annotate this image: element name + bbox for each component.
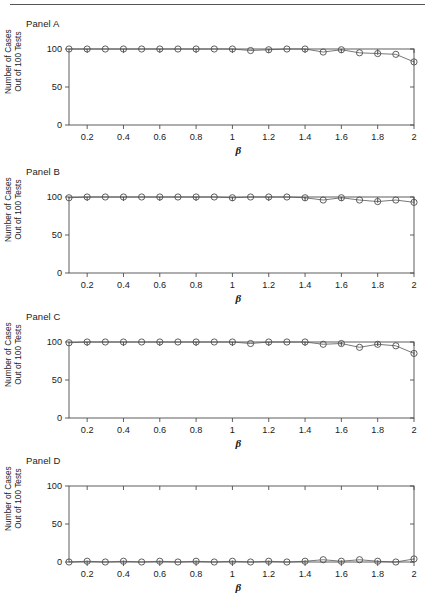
data-point-marker	[84, 339, 90, 345]
data-point-marker	[356, 344, 362, 350]
data-point-marker	[139, 559, 145, 565]
y-tick-label: 0	[57, 120, 62, 130]
x-tick-label: 1.2	[262, 569, 275, 579]
data-point-marker	[302, 339, 308, 345]
x-tick-label: 1.6	[335, 132, 348, 142]
x-tick-label: 1	[230, 280, 235, 290]
data-point-marker	[120, 558, 126, 564]
x-tick-label: 0.4	[117, 425, 130, 435]
panel-b: Panel B Number of Cases Out of 100 Tests…	[0, 166, 435, 314]
data-point-marker	[84, 194, 90, 200]
data-point-marker	[102, 46, 108, 52]
data-point-marker	[302, 46, 308, 52]
data-point-marker	[266, 558, 272, 564]
panel-c: Panel C Number of Cases Out of 100 Tests…	[0, 311, 435, 459]
data-point-marker	[229, 195, 235, 201]
data-point-marker	[356, 557, 362, 563]
data-point-marker	[120, 194, 126, 200]
y-tick-label: 100	[47, 481, 62, 491]
y-tick-label: 50	[52, 519, 62, 529]
data-point-marker	[247, 559, 253, 565]
data-point-marker	[157, 558, 163, 564]
data-point-marker	[393, 343, 399, 349]
data-point-marker	[247, 340, 253, 346]
data-point-marker	[229, 339, 235, 345]
data-point-marker	[66, 195, 72, 201]
panel-d-svg: 0.20.40.60.811.21.41.61.82050100	[0, 455, 435, 601]
y-tick-label: 50	[52, 230, 62, 240]
panel-d: Panel D Number of Cases Out of 100 Tests…	[0, 455, 435, 601]
x-tick-label: 1	[230, 569, 235, 579]
data-point-marker	[356, 50, 362, 56]
x-tick-label: 2	[411, 425, 416, 435]
data-point-marker	[411, 199, 417, 205]
data-point-marker	[393, 51, 399, 57]
y-tick-label: 0	[57, 413, 62, 423]
x-tick-label: 1.4	[299, 569, 312, 579]
y-tick-label: 50	[52, 375, 62, 385]
data-point-marker	[411, 556, 417, 562]
data-point-marker	[211, 194, 217, 200]
x-tick-label: 0.6	[153, 425, 166, 435]
data-point-marker	[102, 194, 108, 200]
panel-d-xlabel: β	[236, 581, 242, 593]
panel-a-svg: 0.20.40.60.811.21.41.61.82050100	[0, 18, 435, 166]
x-tick-label: 1.6	[335, 569, 348, 579]
panel-b-svg: 0.20.40.60.811.21.41.61.82050100	[0, 166, 435, 314]
panel-a: Panel A Number of Cases Out of 100 Tests…	[0, 18, 435, 166]
data-point-marker	[266, 339, 272, 345]
x-tick-label: 0.8	[190, 425, 203, 435]
x-tick-label: 1.6	[335, 280, 348, 290]
x-tick-label: 1.6	[335, 425, 348, 435]
x-tick-label: 1.8	[371, 132, 384, 142]
data-point-marker	[284, 194, 290, 200]
data-point-marker	[157, 339, 163, 345]
data-point-marker	[139, 339, 145, 345]
data-point-marker	[193, 339, 199, 345]
figure-page: Panel A Number of Cases Out of 100 Tests…	[0, 0, 435, 601]
data-point-marker	[157, 194, 163, 200]
x-tick-label: 0.8	[190, 280, 203, 290]
x-tick-label: 1.4	[299, 132, 312, 142]
data-point-marker	[175, 559, 181, 565]
data-point-marker	[393, 197, 399, 203]
y-tick-label: 0	[57, 557, 62, 567]
data-point-marker	[193, 558, 199, 564]
data-point-marker	[266, 47, 272, 53]
data-point-marker	[193, 194, 199, 200]
x-tick-label: 0.6	[153, 132, 166, 142]
data-point-marker	[229, 46, 235, 52]
data-point-marker	[175, 339, 181, 345]
y-tick-label: 100	[47, 44, 62, 54]
x-tick-label: 1.2	[262, 425, 275, 435]
data-point-marker	[320, 197, 326, 203]
data-point-marker	[338, 47, 344, 53]
data-point-marker	[338, 558, 344, 564]
x-tick-label: 1.2	[262, 280, 275, 290]
panel-a-xlabel: β	[236, 144, 242, 156]
y-tick-label: 50	[52, 82, 62, 92]
data-point-marker	[411, 59, 417, 65]
x-tick-label: 2	[411, 280, 416, 290]
data-point-marker	[302, 195, 308, 201]
x-tick-label: 1.2	[262, 132, 275, 142]
data-point-marker	[393, 559, 399, 565]
data-point-marker	[375, 50, 381, 56]
top-divider-rule	[10, 4, 425, 5]
y-tick-label: 0	[57, 268, 62, 278]
x-tick-label: 0.6	[153, 569, 166, 579]
data-point-marker	[120, 46, 126, 52]
x-tick-label: 0.8	[190, 569, 203, 579]
data-point-marker	[120, 339, 126, 345]
data-point-marker	[139, 46, 145, 52]
data-point-marker	[211, 559, 217, 565]
data-point-marker	[157, 46, 163, 52]
panel-c-xlabel: β	[236, 437, 242, 449]
data-point-marker	[175, 194, 181, 200]
data-point-marker	[302, 558, 308, 564]
data-point-marker	[356, 197, 362, 203]
x-tick-label: 1	[230, 425, 235, 435]
x-tick-label: 0.2	[81, 280, 94, 290]
data-point-marker	[320, 49, 326, 55]
x-tick-label: 1	[230, 132, 235, 142]
